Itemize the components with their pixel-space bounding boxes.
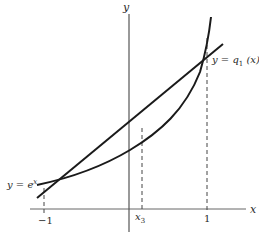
y-axis-label: y: [122, 1, 130, 14]
exp-curve-label: y = ex: [6, 178, 37, 190]
q1-line-label: y = q1 (x): [211, 54, 259, 68]
tick-label-one: 1: [204, 213, 210, 224]
tick-label-x3: x3: [135, 211, 145, 225]
tick-label-minus-one: −1: [38, 215, 53, 226]
exp-label-base: y = e: [6, 179, 33, 190]
x3-subscript: 3: [141, 217, 145, 225]
x-axis-label: x: [250, 203, 257, 216]
diagram-canvas: y x −1 x3 1 y = ex y = q1 (x): [0, 0, 259, 232]
exp-label-superscript: x: [33, 178, 37, 186]
q1-label-base: y = q: [211, 54, 239, 65]
q1-line: [37, 44, 223, 198]
q1-label-suffix: (x): [243, 54, 259, 65]
exp-curve: [37, 17, 211, 185]
